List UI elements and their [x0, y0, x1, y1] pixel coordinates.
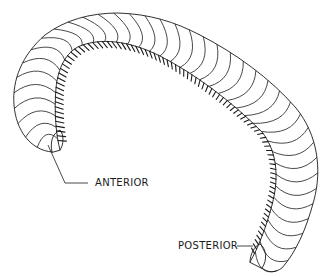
segment-ring — [14, 84, 56, 92]
segment-ring — [14, 98, 55, 109]
leg — [65, 60, 72, 65]
leg — [56, 121, 64, 123]
leg — [191, 75, 192, 82]
leg — [56, 87, 64, 91]
millipede-illustration — [0, 0, 332, 277]
leg — [263, 218, 267, 222]
leg — [112, 42, 117, 48]
segment-ring — [274, 197, 313, 209]
leg — [265, 209, 270, 213]
leg — [264, 213, 268, 217]
leg — [263, 142, 269, 143]
leg — [79, 47, 85, 52]
leg — [68, 56, 75, 61]
leg — [257, 235, 261, 240]
segment-ring — [170, 24, 180, 62]
leg — [216, 95, 219, 100]
millipede-diagram: ANTERIOR POSTERIOR — [0, 0, 332, 277]
leg — [237, 113, 242, 116]
leg — [117, 42, 121, 48]
segment-ring — [18, 111, 55, 124]
leg — [271, 173, 276, 175]
leg — [55, 107, 63, 110]
segment-ring — [271, 209, 308, 223]
leg — [270, 164, 275, 165]
leg — [260, 137, 265, 138]
leg — [198, 80, 200, 86]
segment-ring — [23, 58, 60, 70]
segment-ring — [253, 102, 290, 124]
leg — [271, 182, 276, 184]
leg — [102, 42, 107, 48]
leg — [209, 89, 212, 95]
leg — [57, 136, 65, 137]
leg — [56, 126, 64, 128]
leg — [187, 72, 188, 79]
leg — [270, 168, 275, 169]
leg — [258, 133, 263, 134]
segment-ring — [145, 16, 155, 52]
leg — [98, 42, 103, 48]
leg — [59, 73, 66, 77]
leg — [58, 78, 65, 82]
leg — [60, 68, 67, 72]
leg — [195, 77, 196, 83]
leg — [88, 44, 94, 50]
leg — [206, 86, 208, 92]
leg — [230, 107, 234, 111]
leg — [107, 41, 112, 47]
leg — [248, 123, 253, 125]
leg — [227, 104, 231, 108]
anterior-label: ANTERIOR — [95, 177, 149, 188]
leg — [260, 227, 264, 231]
leg — [71, 52, 77, 57]
segment-ring — [41, 38, 72, 51]
legs — [55, 41, 276, 253]
leg — [244, 120, 249, 122]
leg — [55, 97, 63, 100]
segment-ring — [276, 173, 318, 182]
leg — [93, 43, 98, 49]
leg — [234, 110, 239, 113]
leg — [176, 65, 177, 72]
segment-ring — [114, 13, 131, 44]
leg — [83, 45, 89, 51]
leg — [220, 98, 224, 103]
leg — [251, 126, 256, 128]
leg — [270, 187, 275, 189]
leg — [271, 177, 276, 179]
segment-ring — [129, 14, 142, 48]
body-inner-outline — [55, 41, 276, 262]
leg — [58, 141, 67, 142]
segment-ring — [209, 52, 231, 86]
leg — [269, 196, 274, 199]
leg — [202, 83, 204, 89]
leg — [75, 49, 81, 54]
leg — [270, 191, 275, 194]
segment-ring — [272, 142, 313, 155]
leg — [55, 102, 63, 105]
segment-ring — [275, 157, 317, 168]
leg — [267, 205, 272, 208]
leg — [57, 131, 65, 132]
leg — [56, 92, 64, 95]
leg — [55, 112, 63, 114]
leg — [213, 92, 216, 97]
anterior-leader-line — [48, 145, 88, 183]
leg — [57, 82, 64, 86]
segment-ring — [31, 47, 65, 60]
leg — [259, 231, 263, 236]
leg — [223, 101, 227, 105]
leg — [269, 159, 274, 160]
leg — [255, 240, 258, 245]
segment-ring — [160, 19, 167, 56]
leg — [254, 130, 259, 131]
leg — [241, 116, 246, 119]
segment-ring — [17, 71, 57, 81]
leg — [171, 62, 172, 69]
segment-ring — [276, 186, 317, 196]
leg — [268, 200, 273, 203]
segment-ring — [245, 91, 280, 116]
leg — [55, 116, 63, 118]
segment-ring — [218, 61, 243, 93]
